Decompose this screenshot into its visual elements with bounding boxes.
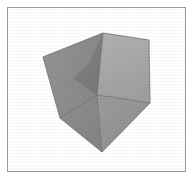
- figure-root: [0, 0, 196, 185]
- cube-illustration: [0, 0, 196, 185]
- cube-top-face: [97, 33, 150, 103]
- cube-right-face: [97, 95, 150, 152]
